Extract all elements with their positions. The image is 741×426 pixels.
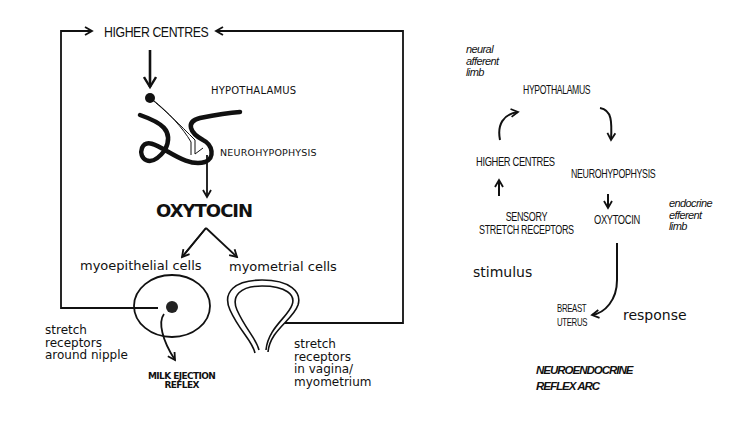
stretch-receptors-nipple-label: stretch receptors around nipple <box>45 324 128 362</box>
neural-afferent-limb-label: neural afferent limb <box>466 44 499 79</box>
curved-arrow-to-neurohypophysis-icon <box>600 108 611 140</box>
uterus-illustration <box>228 280 299 353</box>
feedback-loop-right <box>216 31 403 323</box>
right-higher-centres-label: HIGHER CENTRES <box>476 155 555 168</box>
curved-arrow-to-hypothalamus-icon <box>499 112 518 140</box>
myometrial-cells-label: myometrial cells <box>229 260 337 273</box>
breast-uterus-label: BREAST UTERUS <box>557 301 587 330</box>
milk-ejection-reflex-label: MILK EJECTION REFLEX <box>148 372 215 391</box>
stretch-receptors-vagina-label: stretch receptors in vagina/ myometrium <box>294 338 371 388</box>
curved-arrow-to-breast-uterus-icon <box>592 243 617 315</box>
neurohypophysis-label: NEUROHYPOPHYSIS <box>220 148 317 158</box>
right-hypothalamus-label: HYPOTHALAMUS <box>523 84 590 96</box>
myoepithelial-cells-label: myoepithelial cells <box>80 259 202 272</box>
endocrine-efferent-limb-label: endocrine efferent limb <box>669 198 712 233</box>
right-neurohypophysis-label: NEUROHYPOPHYSIS <box>571 167 655 180</box>
stimulus-label: stimulus <box>473 265 532 279</box>
response-label: response <box>623 308 687 322</box>
hypothalamus-label: HYPOTHALAMUS <box>211 86 296 96</box>
right-oxytocin-label: OXYTOCIN <box>594 213 640 226</box>
higher-centres-label: HIGHER CENTRES <box>104 24 208 39</box>
arrow-to-myoepithelial-icon <box>182 228 206 257</box>
arrow-to-myometrial-icon <box>206 228 237 257</box>
neuroendocrine-reflex-arc-title: NEUROENDOCRINE REFLEX ARC <box>536 363 633 394</box>
sensory-stretch-receptors-label: SENSORY STRETCH RECEPTORS <box>479 211 574 237</box>
oxytocin-label: OXYTOCIN <box>156 202 252 220</box>
breast-illustration <box>134 275 210 360</box>
